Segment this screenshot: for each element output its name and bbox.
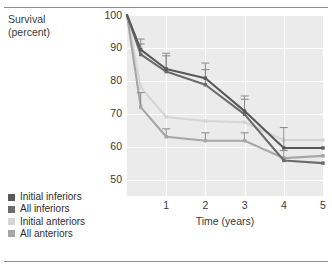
series-all-inferiors bbox=[127, 15, 325, 165]
legend-swatch-icon bbox=[8, 230, 15, 237]
data-point-marker bbox=[204, 119, 207, 122]
x-tick-label: 4 bbox=[274, 199, 294, 211]
data-point-marker bbox=[321, 146, 324, 149]
y-tick-label: 50 bbox=[96, 173, 122, 185]
data-point-marker bbox=[139, 105, 142, 108]
y-tick-label: 60 bbox=[96, 140, 122, 152]
data-point-marker bbox=[139, 86, 142, 89]
series-line bbox=[127, 15, 323, 158]
data-point-marker bbox=[321, 138, 324, 141]
vertical-gridline bbox=[323, 15, 324, 196]
y-tick-label: 90 bbox=[96, 41, 122, 53]
x-tick-label: 3 bbox=[235, 199, 255, 211]
top-rule bbox=[4, 7, 328, 8]
series-initial-anteriors bbox=[127, 15, 325, 142]
data-point-marker bbox=[321, 161, 324, 164]
legend-swatch-icon bbox=[8, 206, 15, 213]
legend-item: Initial anteriors bbox=[8, 216, 85, 228]
legend-label: All inferiors bbox=[20, 203, 69, 215]
data-point-marker bbox=[282, 146, 285, 149]
legend-item: Initial inferiors bbox=[8, 191, 85, 203]
legend-label: Initial anteriors bbox=[20, 216, 85, 228]
x-tick-label: 1 bbox=[156, 199, 176, 211]
series-line bbox=[127, 15, 323, 140]
data-point-marker bbox=[282, 159, 285, 162]
legend-label: Initial inferiors bbox=[20, 191, 82, 203]
data-point-marker bbox=[204, 83, 207, 86]
data-point-marker bbox=[204, 139, 207, 142]
legend-swatch-icon bbox=[8, 218, 15, 225]
data-point-marker bbox=[139, 53, 142, 56]
series-layer bbox=[127, 15, 323, 196]
plot-area bbox=[127, 15, 323, 196]
series-all-anteriors bbox=[127, 15, 325, 160]
y-tick-label: 100 bbox=[96, 9, 122, 21]
x-axis-label: Time (years) bbox=[127, 215, 323, 227]
data-point-marker bbox=[165, 67, 168, 70]
series-line bbox=[127, 15, 323, 148]
x-tick-label: 2 bbox=[195, 199, 215, 211]
legend-item: All inferiors bbox=[8, 203, 85, 215]
series-initial-inferiors bbox=[127, 15, 325, 150]
legend-item: All anteriors bbox=[8, 228, 85, 240]
data-point-marker bbox=[165, 135, 168, 138]
legend: Initial inferiorsAll inferiorsInitial an… bbox=[8, 191, 85, 240]
y-tick-label: 80 bbox=[96, 74, 122, 86]
y-tick-label: 70 bbox=[96, 107, 122, 119]
data-point-marker bbox=[243, 109, 246, 112]
x-tick-label: 5 bbox=[313, 199, 332, 211]
data-point-marker bbox=[243, 139, 246, 142]
data-point-marker bbox=[165, 115, 168, 118]
data-point-marker bbox=[204, 76, 207, 79]
data-point-marker bbox=[139, 48, 142, 51]
legend-swatch-icon bbox=[8, 194, 15, 201]
data-point-marker bbox=[243, 121, 246, 124]
y-axis-label: Survival (percent) bbox=[8, 13, 50, 39]
data-point-marker bbox=[321, 154, 324, 157]
figure: Survival (percent) 5060708090100 12345 T… bbox=[0, 0, 332, 268]
legend-label: All anteriors bbox=[20, 228, 73, 240]
bottom-rule bbox=[4, 261, 328, 262]
